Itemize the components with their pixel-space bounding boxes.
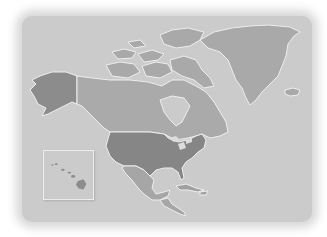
hawaii-island-kauai (51, 164, 53, 166)
region-central-america[interactable] (160, 198, 186, 216)
hawaii-island-niihau (55, 163, 58, 165)
hawaii-island-maui (71, 175, 75, 178)
hawaii-map (44, 151, 92, 198)
region-arctic-islands[interactable] (106, 28, 214, 88)
north-america-map (0, 0, 327, 237)
hawaii-island-big-island (76, 179, 86, 189)
region-caribbean[interactable] (176, 184, 208, 195)
region-alaska[interactable] (30, 72, 77, 116)
hawaii-inset[interactable] (43, 150, 94, 200)
region-iceland[interactable] (285, 88, 300, 96)
hawaii-island-molokai (68, 172, 72, 174)
hawaii-island-oahu (61, 169, 65, 171)
